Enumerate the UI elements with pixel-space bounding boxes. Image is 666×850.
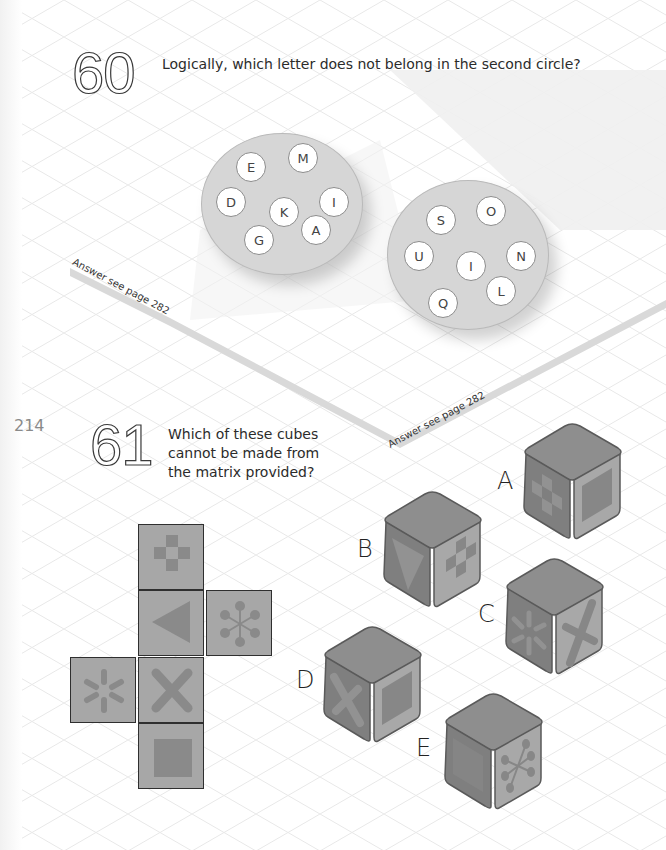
x-cross-icon: [139, 658, 205, 724]
cube-label-e[interactable]: E: [416, 734, 431, 762]
puzzle-61-question: Which of these cubes cannot be made from…: [168, 425, 319, 482]
page-number: 214: [14, 416, 45, 435]
puzzle-number-60: 60: [72, 44, 135, 102]
letter-bubble: E: [236, 152, 266, 182]
letter-bubble: S: [426, 205, 456, 235]
checker-cross-icon: [139, 525, 205, 591]
cube-a[interactable]: [520, 422, 630, 542]
puzzle-number-61: 61: [90, 416, 153, 474]
question-line: the matrix provided?: [168, 463, 319, 482]
letter-bubble: K: [269, 197, 299, 227]
net-face-checker-cross: [138, 524, 204, 590]
cube-c[interactable]: [502, 557, 612, 677]
cube-label-a[interactable]: A: [497, 467, 513, 495]
question-line: Which of these cubes: [168, 425, 319, 444]
cube-label-b[interactable]: B: [357, 535, 373, 563]
letter-bubble: U: [404, 241, 434, 271]
net-face-molecule-star: [206, 590, 272, 656]
cube-b[interactable]: [380, 490, 490, 610]
letter-bubble: I: [456, 251, 486, 281]
letter-bubble: O: [476, 196, 506, 226]
letter-bubble: A: [301, 215, 331, 245]
letter-circle-1: E M D K I G A: [201, 133, 363, 275]
letter-bubble: L: [486, 276, 516, 306]
net-face-triangle: [138, 590, 204, 656]
question-line: cannot be made from: [168, 444, 319, 463]
net-face-square: [138, 723, 204, 789]
net-face-x-cross: [138, 657, 204, 723]
letter-circle-2: S O U I N Q L: [387, 180, 549, 330]
letter-bubble: M: [288, 143, 318, 173]
puzzle-60-question: Logically, which letter does not belong …: [162, 55, 581, 74]
letter-bubble: D: [216, 187, 246, 217]
molecule-star-icon: [207, 591, 273, 657]
triangle-left-icon: [139, 591, 205, 657]
cube-e[interactable]: [441, 692, 551, 812]
square-icon: [139, 724, 205, 790]
letter-bubble: I: [319, 187, 349, 217]
cube-label-d[interactable]: D: [296, 666, 314, 694]
asterisk-icon: [71, 658, 137, 724]
cube-label-c[interactable]: C: [478, 600, 495, 628]
net-face-asterisk: [70, 657, 136, 723]
letter-bubble: N: [506, 241, 536, 271]
cube-d[interactable]: [320, 625, 430, 745]
letter-bubble: Q: [428, 288, 458, 318]
letter-bubble: G: [244, 225, 274, 255]
